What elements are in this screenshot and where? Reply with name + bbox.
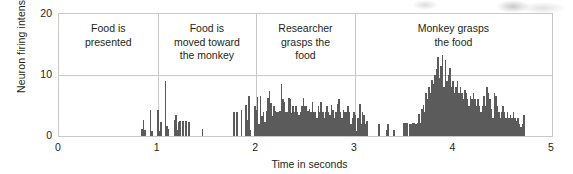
histogram-bar [202,129,204,136]
histogram-bar [393,130,395,136]
histogram-bar [168,129,170,136]
histogram-bar [188,122,190,136]
histogram-bar [406,123,408,136]
phase-label: Food is moved toward the monkey [158,22,257,63]
scan-artifact-smudge-left [412,0,438,10]
x-axis-tick: 5 [539,142,563,153]
histogram-bar [151,131,153,136]
histogram-bar [233,112,235,136]
y-axis-tick: 10 [26,69,52,80]
histogram-bar [241,110,243,136]
histogram-bar [378,124,380,136]
phase-label: Researcher grasps the food [256,22,355,63]
gridline [59,75,552,76]
phase-label: Monkey grasps the food [355,22,552,49]
histogram-bar [236,112,238,136]
histogram-bar [179,121,181,136]
histogram-bar [249,130,251,136]
x-axis-tick: 0 [46,142,70,153]
y-axis-tick: 20 [26,8,52,19]
x-axis-label: Time in seconds [271,158,347,170]
x-axis-tick: 3 [342,142,366,153]
phase-label: Food is presented [59,22,158,49]
neuron-firing-histogram-figure: Neuron firing intensity 01020 012345 Foo… [0,0,573,174]
histogram-bar [387,124,389,136]
histogram-bar [523,115,525,136]
histogram-bar [144,130,146,136]
histogram-bar [160,122,162,136]
x-axis-tick: 1 [145,142,169,153]
x-axis-tick: 2 [243,142,267,153]
histogram-bar [182,121,184,136]
histogram-bar [185,121,187,136]
scan-artifact-smudge-center [496,0,530,13]
x-axis-label-wrap: Time in seconds [0,158,573,170]
x-axis-tick: 4 [440,142,464,153]
y-axis-tick: 0 [26,130,52,141]
plot-area: Food is presentedFood is moved toward th… [58,13,553,137]
histogram-bar [366,121,368,136]
